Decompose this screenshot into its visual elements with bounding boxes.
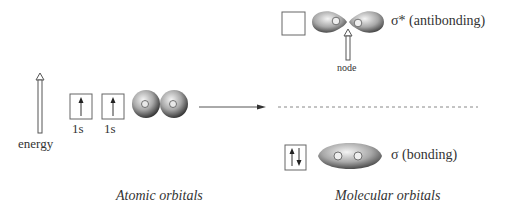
atomic-orbital-box-2: [102, 94, 124, 119]
bonding-orbital-box: [285, 145, 306, 170]
antibonding-label: σ* (antibonding): [391, 13, 485, 29]
energy-arrow-icon: [36, 73, 44, 133]
molecular-orbitals-title: Molecular orbitals: [335, 188, 440, 204]
antibonding-lobe-left: [312, 11, 347, 32]
bonding-orbital-shape: [318, 143, 382, 169]
combine-arrow-icon: [199, 105, 266, 110]
antibonding-lobe-right: [349, 11, 384, 32]
atomic-orbitals-title: Atomic orbitals: [116, 188, 203, 204]
mo-diagram: [0, 0, 506, 211]
node-arrow-icon: [344, 29, 352, 60]
atomic-orbital-sphere-1: [132, 90, 160, 118]
atomic-orbital-box-1: [70, 94, 92, 119]
node-label: node: [337, 62, 356, 73]
bonding-label: σ (bonding): [391, 147, 457, 163]
antibonding-orbital-box: [282, 12, 305, 35]
energy-label: energy: [18, 136, 53, 152]
atomic-orbital-label-2: 1s: [104, 121, 116, 137]
atomic-orbital-sphere-2: [160, 90, 188, 118]
atomic-orbital-label-1: 1s: [72, 121, 84, 137]
